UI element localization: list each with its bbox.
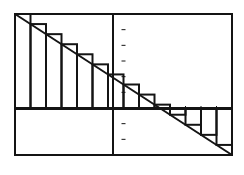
riemann-rectangle [93,64,109,108]
riemann-rectangle [31,24,47,108]
riemann-rectangle [201,108,217,135]
riemann-rectangle [124,85,140,109]
riemann-rectangle [46,34,62,108]
riemann-rectangles [15,14,232,145]
riemann-rectangle [186,108,202,125]
calculator-graph-screen [0,0,244,175]
riemann-rectangle [217,108,233,145]
function-line [15,14,232,155]
riemann-rectangle [15,14,31,108]
